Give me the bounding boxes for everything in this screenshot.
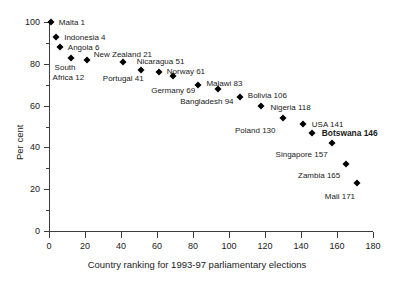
y-tick-label: 20 [16, 184, 40, 194]
x-axis-title: Country ranking for 1993-97 parliamentar… [88, 259, 307, 270]
y-tick-major [44, 106, 50, 107]
data-point-marker [137, 67, 144, 74]
x-tick-label: 100 [214, 241, 244, 251]
data-point-label: South [55, 63, 76, 72]
data-point-label: Nigeria 118 [270, 103, 310, 112]
x-tick-label: 80 [178, 241, 208, 251]
data-point-marker [342, 161, 349, 168]
scatter-chart: 020406080100 020406080100120140160180 Ma… [0, 0, 394, 283]
data-point-label: Botswana 146 [322, 129, 378, 138]
y-tick-minor [46, 43, 50, 44]
x-tick-label: 0 [34, 241, 64, 251]
x-tick-label: 20 [70, 241, 100, 251]
x-tick-major [265, 232, 266, 238]
y-tick-label: 80 [16, 59, 40, 69]
data-point-marker [353, 179, 360, 186]
data-point-marker [195, 81, 202, 88]
data-point-label: Norway 61 [167, 67, 205, 76]
y-tick-minor [46, 210, 50, 211]
data-point-marker [67, 54, 74, 61]
data-point-label: Indonesia 4 [64, 33, 105, 42]
y-tick-minor [46, 85, 50, 86]
data-point-marker [308, 129, 315, 136]
data-point-marker [328, 140, 335, 147]
data-point-marker [53, 33, 60, 40]
data-point-label: Nicaragua 51 [137, 57, 185, 66]
x-tick-major [193, 232, 194, 238]
x-tick-major [301, 232, 302, 238]
data-point-label: Bangladesh 94 [180, 97, 233, 106]
x-tick-label: 40 [106, 241, 136, 251]
y-tick-label: 60 [16, 101, 40, 111]
data-point-label: Singapore 157 [276, 150, 328, 159]
x-tick-major [157, 232, 158, 238]
y-tick-major [44, 64, 50, 65]
y-tick-label: 100 [16, 17, 40, 27]
data-point-marker [56, 44, 63, 51]
y-tick-major [44, 189, 50, 190]
x-tick-major [49, 232, 50, 238]
x-tick-major [121, 232, 122, 238]
data-point-marker [236, 94, 243, 101]
y-axis-title: Per cent [14, 125, 25, 160]
x-tick-label: 60 [142, 241, 172, 251]
data-point-label: Malawi 83 [206, 79, 242, 88]
x-tick-major [337, 232, 338, 238]
data-point-label: Zambia 165 [298, 171, 340, 180]
x-tick-label: 120 [250, 241, 280, 251]
x-tick-label: 160 [322, 241, 352, 251]
data-point-label: Bolivia 106 [248, 91, 287, 100]
data-point-marker [155, 69, 162, 76]
data-point-label: Portugal 41 [103, 74, 144, 83]
data-point-label: Malta 1 [59, 18, 85, 27]
x-tick-label: 140 [286, 241, 316, 251]
x-tick-major [373, 232, 374, 238]
data-point-marker [299, 121, 306, 128]
data-point-label: Mali 171 [325, 192, 355, 201]
data-point-marker [119, 58, 126, 65]
x-axis-line [49, 231, 373, 232]
data-point-marker [83, 56, 90, 63]
data-point-label: Africa 12 [53, 73, 85, 82]
x-tick-label: 180 [358, 241, 388, 251]
data-point-label: Germany 69 [151, 86, 195, 95]
data-point-marker [258, 102, 265, 109]
y-tick-label: 0 [16, 226, 40, 236]
y-tick-minor [46, 168, 50, 169]
data-point-label: Poland 130 [235, 126, 275, 135]
x-tick-major [229, 232, 230, 238]
x-tick-major [85, 232, 86, 238]
y-tick-minor [46, 127, 50, 128]
data-point-marker [279, 115, 286, 122]
y-tick-major [44, 147, 50, 148]
